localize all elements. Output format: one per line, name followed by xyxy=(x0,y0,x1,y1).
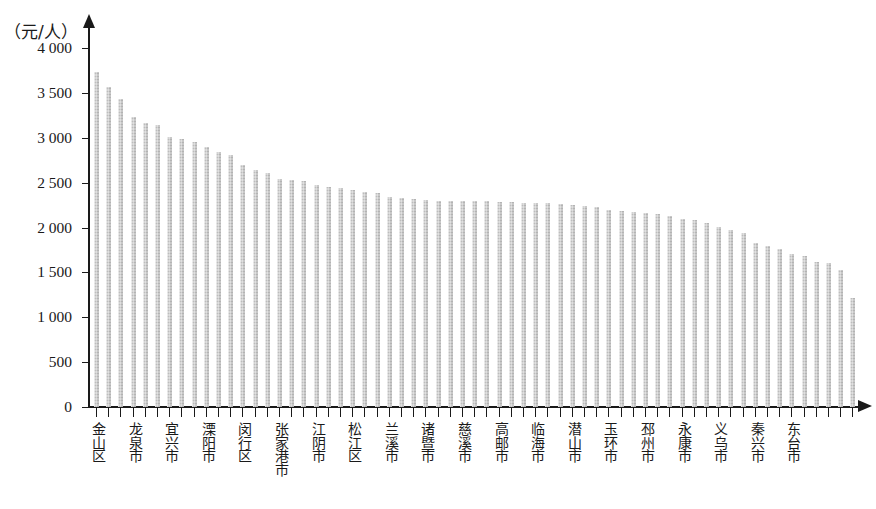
x-tick-label: 永康市 xyxy=(676,422,691,463)
x-tick-label: 玉环市 xyxy=(602,422,617,463)
bar xyxy=(570,205,575,407)
bar xyxy=(155,125,160,407)
bar xyxy=(619,211,624,407)
x-tick xyxy=(743,408,744,417)
bar xyxy=(94,72,99,407)
x-tick xyxy=(206,408,207,417)
x-tick xyxy=(645,408,646,417)
x-tick xyxy=(145,408,146,417)
x-tick xyxy=(303,408,304,417)
x-tick-label: 东台市 xyxy=(785,422,800,463)
bar xyxy=(521,203,526,407)
x-tick xyxy=(584,408,585,417)
bar xyxy=(118,99,123,407)
x-tick xyxy=(157,408,158,417)
x-tick xyxy=(633,408,634,417)
x-tick xyxy=(120,408,121,417)
bar xyxy=(692,220,697,407)
y-tick xyxy=(82,48,90,49)
bar xyxy=(143,123,148,407)
bar xyxy=(497,202,502,407)
bar xyxy=(765,246,770,407)
x-tick xyxy=(621,408,622,417)
x-tick-label: 松江区 xyxy=(346,422,361,463)
bar xyxy=(436,201,441,407)
x-tick xyxy=(828,408,829,417)
x-tick xyxy=(767,408,768,417)
x-tick xyxy=(133,408,134,417)
x-tick xyxy=(730,408,731,417)
x-tick-label: 秦兴市 xyxy=(749,422,764,463)
x-tick xyxy=(462,408,463,417)
x-tick-label: 溧阳市 xyxy=(200,422,215,463)
x-tick xyxy=(218,408,219,417)
x-tick xyxy=(230,408,231,417)
bar xyxy=(802,256,807,407)
bar xyxy=(362,192,367,407)
y-tick xyxy=(82,93,90,94)
bar xyxy=(131,117,136,407)
x-tick xyxy=(840,408,841,417)
y-tick-label: 500 xyxy=(0,354,72,370)
x-tick-label: 义乌市 xyxy=(712,422,727,463)
bar xyxy=(460,201,465,407)
bar xyxy=(582,206,587,407)
bar xyxy=(167,137,172,407)
bar xyxy=(448,201,453,407)
x-tick-label: 张家港市 xyxy=(273,422,288,476)
y-tick-label: 3 000 xyxy=(0,130,72,146)
bar xyxy=(289,180,294,407)
bar xyxy=(814,262,819,407)
x-tick xyxy=(523,408,524,417)
x-tick xyxy=(694,408,695,417)
x-tick xyxy=(804,408,805,417)
bar xyxy=(789,254,794,407)
bar xyxy=(777,249,782,407)
x-tick xyxy=(108,408,109,417)
y-tick xyxy=(82,138,90,139)
x-axis-arrow-icon xyxy=(858,400,872,412)
x-tick-label: 金山区 xyxy=(90,422,105,463)
x-tick-label: 诸暨市 xyxy=(419,422,434,463)
x-tick xyxy=(267,408,268,417)
x-tick xyxy=(791,408,792,417)
x-tick xyxy=(169,408,170,417)
x-tick xyxy=(413,408,414,417)
bar xyxy=(399,198,404,407)
bar xyxy=(338,188,343,407)
y-tick xyxy=(82,183,90,184)
bar xyxy=(643,213,648,407)
bar xyxy=(667,216,672,407)
bar xyxy=(655,214,660,407)
x-tick xyxy=(194,408,195,417)
x-tick xyxy=(547,408,548,417)
y-tick-label: 2 000 xyxy=(0,220,72,236)
x-tick xyxy=(328,408,329,417)
x-tick xyxy=(340,408,341,417)
x-tick-label: 慈溪市 xyxy=(456,422,471,463)
y-tick-label: 1 500 xyxy=(0,264,72,280)
x-tick xyxy=(718,408,719,417)
y-tick-label: 4 000 xyxy=(0,40,72,56)
x-tick xyxy=(474,408,475,417)
bar xyxy=(850,298,855,407)
x-tick xyxy=(535,408,536,417)
x-tick xyxy=(560,408,561,417)
x-tick xyxy=(425,408,426,417)
x-tick-label: 兰溪市 xyxy=(383,422,398,463)
x-tick xyxy=(682,408,683,417)
bar xyxy=(716,227,721,407)
x-tick-label: 闵行区 xyxy=(236,422,251,463)
x-tick xyxy=(596,408,597,417)
bar xyxy=(838,270,843,407)
x-tick xyxy=(669,408,670,417)
x-tick xyxy=(279,408,280,417)
x-tick xyxy=(389,408,390,417)
x-tick xyxy=(377,408,378,417)
y-tick-label: 1 000 xyxy=(0,309,72,325)
bar xyxy=(179,139,184,407)
bar xyxy=(411,199,416,407)
bar xyxy=(301,181,306,407)
x-tick xyxy=(608,408,609,417)
y-tick xyxy=(82,362,90,363)
